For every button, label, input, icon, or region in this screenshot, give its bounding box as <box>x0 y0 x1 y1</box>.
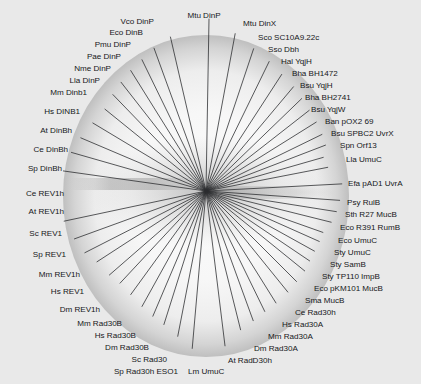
leaf-label: Sty UmuC <box>334 248 371 257</box>
leaf-label: Sco SC10A9.22c <box>258 33 319 42</box>
leaf-label: Sp DinBh <box>28 164 62 173</box>
figure-canvas: Mtu DinPMtu DinXSco SC10A9.22cSso DbhHal… <box>0 0 421 384</box>
leaf-label: Lla DinP <box>70 76 100 85</box>
leaf-label: Eco DinB <box>109 28 143 37</box>
leaf-label: Mtu DinP <box>187 11 220 20</box>
leaf-label: At DinBh <box>40 126 72 135</box>
leaf-label: Hal YqjH <box>281 57 312 66</box>
leaf-label: Sty TP110 ImpB <box>322 272 380 281</box>
leaf-label: Eco UmuC <box>338 236 377 245</box>
leaf-label: Sp Rad30h ESO1 <box>114 367 179 376</box>
leaf-label: Lm UmuC <box>188 367 224 376</box>
leaf-label: Pmu DinP <box>95 40 131 49</box>
leaf-label: Sc REV1 <box>29 229 62 238</box>
leaf-label: Sth R27 MucB <box>345 210 397 219</box>
leaf-label: Bsu YqjH <box>300 81 333 90</box>
leaf-label: Dm REV1h <box>60 305 100 314</box>
leaf-label: Ce Rad30h <box>295 308 336 317</box>
leaf-label: Bha BH1472 <box>292 69 338 78</box>
leaf-label: Hs Rad30B <box>95 331 136 340</box>
leaf-label: Ce DinBh <box>34 145 68 154</box>
leaf-label: Sma MucB <box>305 296 344 305</box>
leaf-label: Pae DinP <box>87 52 121 61</box>
leaf-label: Hs Rad30A <box>282 320 324 329</box>
leaf-label: Lla UmuC <box>346 155 382 164</box>
leaf-label: Bsu YqjW <box>311 105 346 114</box>
leaf-label: Mtu DinX <box>243 19 277 28</box>
leaf-label: Dm Rad30B <box>105 343 149 352</box>
leaf-label: Dm Rad30A <box>254 344 299 353</box>
leaf-label: Mm Rad30A <box>268 332 313 341</box>
leaf-label: Nme DinP <box>74 64 111 73</box>
leaf-label: Sty SamB <box>330 260 366 269</box>
leaf-label: Ce REV1h <box>26 189 64 198</box>
leaf-label: Sp REV1 <box>33 250 67 259</box>
leaf-label: Eco R391 RumB <box>340 223 400 232</box>
leaf-label: Bha BH2741 <box>305 93 351 102</box>
leaf-label: Sso Dbh <box>268 45 299 54</box>
leaf-label: Sc Rad30 <box>132 355 168 364</box>
leaf-label: Efa pAD1 UvrA <box>348 179 403 188</box>
leaf-label: Bsu SPBC2 UvrX <box>331 129 394 138</box>
leaf-label: Hs DINB1 <box>44 107 80 116</box>
leaf-label: Psy RulB <box>347 198 380 207</box>
leaf-label: Mm REV1h <box>39 270 80 279</box>
leaf-label: Hs REV1 <box>51 287 85 296</box>
leaf-label: Eco pKM101 MucB <box>314 284 383 293</box>
leaf-label: Mm Rad30B <box>77 319 122 328</box>
radial-phylogenetic-tree: Mtu DinPMtu DinXSco SC10A9.22cSso DbhHal… <box>0 0 421 384</box>
leaf-label: At REV1h <box>29 207 64 216</box>
leaf-label: Ban pOX2 69 <box>325 117 374 126</box>
leaf-label: At RadD30h <box>228 356 272 365</box>
leaf-label: Spn Orf13 <box>340 141 377 150</box>
leaf-label: Vco DinP <box>120 17 154 26</box>
leaf-label: Mm Dinb1 <box>50 88 87 97</box>
